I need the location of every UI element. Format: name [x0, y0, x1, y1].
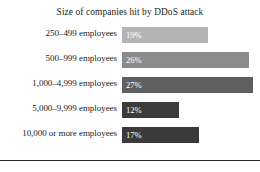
bar-category-label: 10,000 or more employees — [0, 128, 117, 138]
bar-category-label: 500–999 employees — [0, 53, 117, 63]
bar-rect[interactable]: 17% — [122, 127, 199, 143]
bar-rect[interactable]: 26% — [122, 52, 249, 68]
bar-value-label: 26% — [126, 53, 142, 67]
bar-value-label: 12% — [126, 103, 142, 117]
bottom-divider — [0, 160, 260, 161]
bar-row: 5,000–9,999 employees 12% — [0, 102, 260, 118]
bar-row: 1,000–4,999 employees 27% — [0, 77, 260, 93]
bar-rect[interactable]: 19% — [122, 27, 208, 43]
bar-rect[interactable]: 27% — [122, 77, 253, 93]
bar-category-label: 250–499 employees — [0, 28, 117, 38]
bar-rect[interactable]: 12% — [122, 102, 179, 118]
bar-category-label: 1,000–4,999 employees — [0, 78, 117, 88]
bar-row: 10,000 or more employees 17% — [0, 127, 260, 143]
bar-track: 17% — [122, 127, 199, 143]
bar-track: 19% — [122, 27, 208, 43]
bar-value-label: 19% — [126, 28, 142, 42]
bar-row: 250–499 employees 19% — [0, 27, 260, 43]
bar-row: 500–999 employees 26% — [0, 52, 260, 68]
bar-track: 12% — [122, 102, 179, 118]
bar-value-label: 27% — [126, 78, 142, 92]
bar-category-label: 5,000–9,999 employees — [0, 103, 117, 113]
bar-track: 27% — [122, 77, 253, 93]
chart-title: Size of companies hit by DDoS attack — [0, 7, 260, 17]
bar-chart-figure: Size of companies hit by DDoS attack 250… — [0, 0, 260, 172]
bar-track: 26% — [122, 52, 249, 68]
bar-value-label: 17% — [126, 128, 142, 142]
bars-area: 250–499 employees 19% 500–999 employees … — [0, 27, 260, 152]
